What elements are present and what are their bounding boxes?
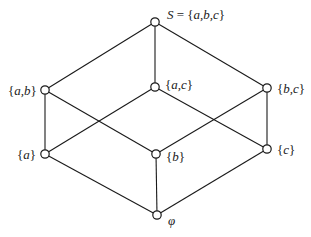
edge-bc-b — [156, 88, 267, 154]
node-label-ab: {a,b} — [8, 84, 37, 97]
node-c — [263, 145, 271, 153]
edge-b-empty — [156, 154, 157, 215]
diagram-edges — [0, 0, 311, 237]
node-abc — [151, 18, 159, 26]
node-ab — [41, 86, 49, 94]
edge-ac-c — [155, 87, 267, 149]
node-label-ac: {a,c} — [165, 78, 193, 91]
node-label-c: {c} — [277, 143, 295, 156]
node-label-a: {a} — [17, 148, 36, 161]
node-label-b: {b} — [166, 150, 185, 163]
node-label-bc: {b,c} — [277, 82, 305, 95]
node-a — [41, 150, 49, 158]
node-empty — [153, 211, 161, 219]
node-b — [152, 150, 160, 158]
node-ac — [151, 83, 159, 91]
hasse-diagram: S = {a,b,c} {a,b} {a,c} {b,c} {a} {b} {c… — [0, 0, 311, 237]
node-label-empty: φ — [168, 214, 175, 227]
edge-abc-ab — [45, 22, 155, 90]
node-bc — [263, 84, 271, 92]
node-label-abc: S = {a,b,c} — [167, 8, 225, 21]
edge-a-empty — [45, 154, 157, 215]
